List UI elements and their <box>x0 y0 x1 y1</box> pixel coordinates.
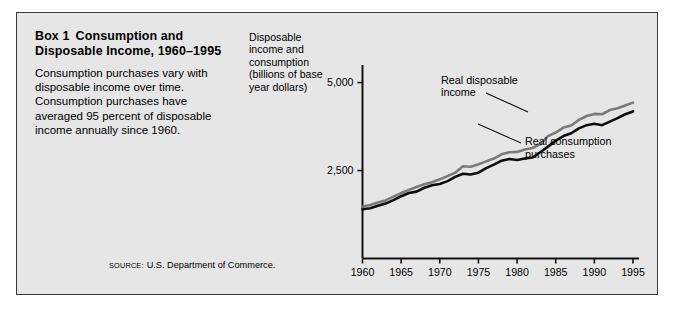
box-title-kicker: Box 1 <box>35 29 70 43</box>
annotation-disposable-income-line1: Real disposable <box>441 74 518 86</box>
y-tick-group: 2,5005,000 <box>327 76 363 176</box>
source-text: U.S. Department of Commerce. <box>147 260 276 270</box>
x-tick-label: 1985 <box>544 266 568 278</box>
figure-panel: Box 1Consumption and Disposable Income, … <box>16 12 658 295</box>
series-line-real-consumption-purchases <box>363 111 634 209</box>
y-tick-label: 2,500 <box>327 164 354 176</box>
annotation-consumption-line2: purchases <box>525 148 575 160</box>
x-tick-label: 1995 <box>621 266 645 278</box>
y-axis-caption: Disposable income and consumption (billi… <box>249 31 325 93</box>
source-note: SOURCE:U.S. Department of Commerce. <box>109 260 275 270</box>
x-tick-label: 1965 <box>389 266 413 278</box>
x-tick-label: 1970 <box>428 266 452 278</box>
annotation-disposable-income-line2: income <box>441 86 476 98</box>
box-title: Box 1Consumption and Disposable Income, … <box>35 29 235 59</box>
box-text-column: Box 1Consumption and Disposable Income, … <box>35 29 235 137</box>
x-tick-label: 1960 <box>351 266 375 278</box>
annotation-disposable-income-leader <box>486 93 528 112</box>
x-tick-group: 19601965197019751980198519901995 <box>351 259 645 278</box>
series-line-real-disposable-income <box>363 103 634 207</box>
x-tick-label: 1980 <box>505 266 529 278</box>
line-chart: 2,5005,000 19601965197019751980198519901… <box>317 43 647 278</box>
box-body-text: Consumption purchases vary with disposab… <box>35 66 235 137</box>
source-kicker: SOURCE: <box>109 261 144 270</box>
x-tick-label: 1975 <box>467 266 491 278</box>
annotation-consumption-line1: Real consumption <box>525 135 611 147</box>
chart-svg: 2,5005,000 19601965197019751980198519901… <box>317 43 647 278</box>
x-tick-label: 1990 <box>583 266 607 278</box>
y-tick-label: 5,000 <box>327 76 354 88</box>
annotation-consumption-leader <box>478 124 521 143</box>
